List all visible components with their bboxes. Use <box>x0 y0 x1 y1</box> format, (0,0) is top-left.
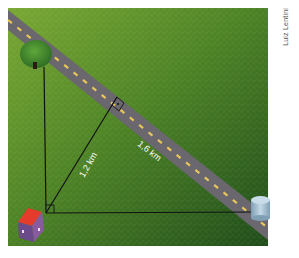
diagram-scene: 1,2 km 1,6 km <box>0 0 299 258</box>
water-tank-icon <box>251 196 270 221</box>
image-credit: Luiz Lentini <box>282 8 289 46</box>
